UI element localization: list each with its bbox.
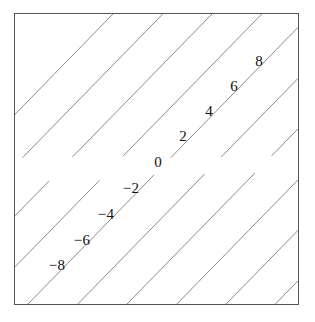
contour-segment — [271, 129, 298, 156]
contour-segment — [275, 281, 298, 304]
contour-segment — [15, 180, 99, 267]
contour-label: 2 — [179, 129, 187, 144]
contour-label: 6 — [230, 79, 238, 94]
contour-segment — [15, 14, 113, 158]
contour-plot-figure: 86420−2−4−6−8 — [0, 0, 315, 322]
contour-segment — [15, 181, 49, 216]
contour-label: −2 — [123, 181, 139, 196]
plot-frame: 86420−2−4−6−8 — [14, 13, 299, 305]
contour-label: −6 — [74, 233, 90, 248]
contour-label: 0 — [154, 155, 162, 170]
contour-segment — [177, 173, 298, 304]
contour-label: 8 — [255, 54, 263, 69]
contour-segment — [127, 173, 255, 304]
contour-label: −4 — [98, 207, 114, 222]
contour-label: 4 — [205, 104, 213, 119]
contour-segment — [78, 174, 205, 304]
contour-label: −8 — [49, 258, 65, 273]
